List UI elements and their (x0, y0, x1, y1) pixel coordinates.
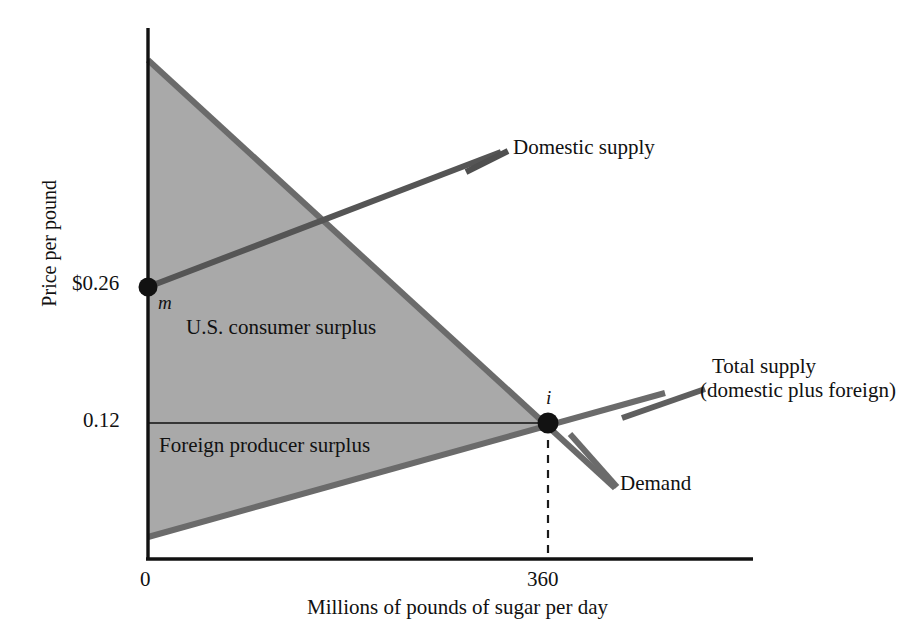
point-i-marker (538, 413, 559, 434)
chart-canvas (0, 0, 915, 627)
y-axis-title: Price per pound (38, 180, 60, 307)
x-axis-title: Millions of pounds of sugar per day (0, 596, 915, 620)
point-i-label: i (546, 387, 551, 408)
shaded-surplus-areas (148, 60, 548, 537)
x-tick-label-origin: 0 (140, 568, 151, 592)
total-supply-label-line1: Total supply (712, 354, 816, 378)
point-m-label: m (158, 292, 172, 313)
y-tick-label-price-high: $0.26 (72, 272, 119, 296)
demand-leader-line (570, 434, 617, 487)
total-supply-label: Total supply (domestic plus foreign) (712, 355, 896, 402)
y-axis-title-wrapper: Price per pound (38, 180, 64, 380)
x-tick-label-equilibrium-quantity: 360 (527, 568, 559, 592)
total-supply-label-line2: (domestic plus foreign) (700, 379, 896, 403)
sugar-market-figure: Price per pound Millions of pounds of su… (0, 0, 915, 627)
point-m-marker (139, 278, 158, 297)
consumer-surplus-label: U.S. consumer surplus (186, 316, 376, 340)
y-tick-label-price-low: 0.12 (83, 409, 120, 433)
demand-label: Demand (620, 472, 691, 496)
producer-surplus-label: Foreign producer surplus (159, 434, 370, 458)
domestic-supply-label: Domestic supply (513, 136, 655, 160)
